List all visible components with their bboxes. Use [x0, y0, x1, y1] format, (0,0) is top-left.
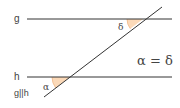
label-delta: δ [118, 22, 123, 32]
label-g: g [14, 13, 20, 24]
equation-alpha-equals-delta: α = δ [137, 53, 173, 68]
label-h: h [14, 71, 20, 82]
label-alpha: α [43, 82, 49, 92]
transversal-line [44, 7, 162, 97]
parallel-lines-diagram: g h g||h δ α α = δ [0, 0, 180, 108]
label-parallel-note: g||h [14, 88, 29, 98]
